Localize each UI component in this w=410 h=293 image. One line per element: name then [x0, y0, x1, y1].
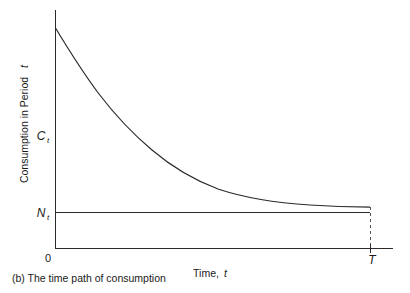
x-axis-title-variable: t	[224, 267, 228, 279]
y-tick-label-ct-subscript: t	[47, 136, 50, 145]
y-axis-title-group: Consumption in Period t	[18, 64, 30, 183]
y-axis-title-variable: t	[18, 64, 30, 68]
y-tick-label-ct: C	[37, 129, 46, 143]
y-axis-title: Consumption in Period	[18, 77, 30, 183]
figure-panel: 0 T C t N t Consumption in Period t Time…	[0, 0, 410, 293]
consumption-time-path-chart: 0 T C t N t Consumption in Period t Time…	[0, 0, 410, 293]
x-tick-label-zero: 0	[45, 252, 51, 264]
x-axis-title: Time,	[193, 267, 219, 279]
consumption-curve	[56, 28, 371, 207]
figure-caption: (b) The time path of consumption	[12, 272, 166, 284]
x-tick-label-T: T	[368, 253, 377, 267]
y-tick-label-nt-subscript: t	[47, 213, 50, 222]
y-tick-label-nt: N	[37, 206, 46, 220]
